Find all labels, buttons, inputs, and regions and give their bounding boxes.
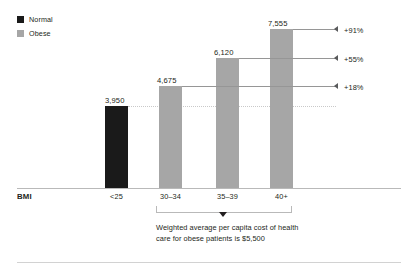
annotation-label-91: +91%	[344, 26, 364, 35]
footer-divider	[17, 262, 401, 263]
bar-lt25	[105, 106, 128, 188]
bar-35-39	[216, 58, 239, 188]
plot-area: 3,950 4,675 6,120 7,555 +91% +55% +18%	[0, 0, 418, 188]
bmi-health-cost-chart: Normal Obese 3,950 4,675 6,120 7,555 +91…	[0, 0, 418, 269]
category-label-35-39: 35–39	[212, 192, 243, 201]
leader-line-91	[293, 29, 338, 30]
bar-30-34	[159, 86, 182, 188]
annotation-label-18: +18%	[344, 83, 364, 92]
bracket-pointer-icon	[219, 212, 227, 217]
category-label-lt25: <25	[105, 192, 128, 201]
category-label-30-34: 30–34	[155, 192, 186, 201]
bar-value-lt25: 3,950	[105, 96, 125, 105]
arrow-marker-18-icon	[334, 83, 338, 89]
callout-caption-line1: Weighted average per capita cost of heal…	[156, 223, 298, 234]
annotation-label-55: +55%	[344, 55, 364, 64]
bar-40-plus	[270, 29, 293, 188]
category-label-40-plus: 40+	[268, 192, 295, 201]
arrow-marker-55-icon	[334, 55, 338, 61]
axis-baseline	[17, 188, 401, 189]
bar-value-30-34: 4,675	[157, 76, 177, 85]
leader-line-55	[239, 58, 338, 59]
bar-value-35-39: 6,120	[214, 48, 234, 57]
arrow-marker-91-icon	[334, 26, 338, 32]
leader-line-18	[182, 86, 338, 87]
axis-title-bmi: BMI	[17, 192, 32, 201]
callout-caption-line2: care for obese patients is $5,500	[156, 234, 265, 245]
bar-value-40-plus: 7,555	[268, 19, 288, 28]
